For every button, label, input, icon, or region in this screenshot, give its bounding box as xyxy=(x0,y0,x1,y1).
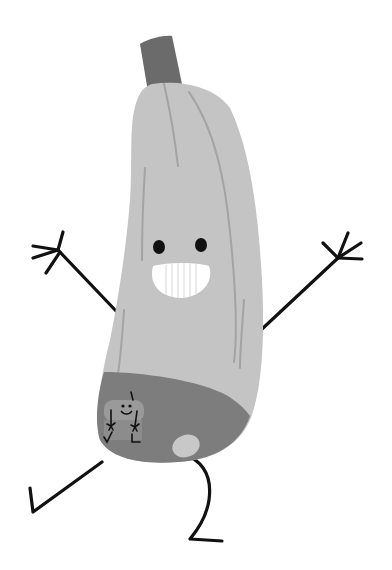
left-leg xyxy=(30,462,102,512)
zucchini-illustration xyxy=(0,0,392,570)
right-eye xyxy=(195,238,207,252)
right-arm xyxy=(247,233,362,343)
right-leg xyxy=(184,454,222,541)
left-arm xyxy=(33,232,117,312)
left-eye xyxy=(153,240,165,254)
